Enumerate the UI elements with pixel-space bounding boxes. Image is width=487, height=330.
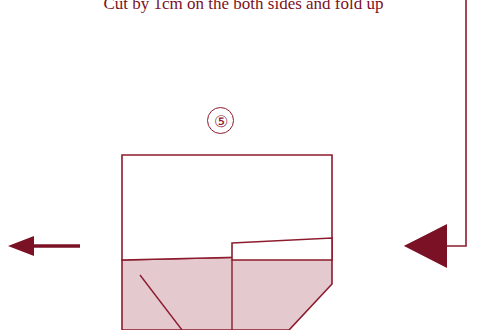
fold-direction-right-arrow-head	[404, 224, 447, 268]
fold-guide-path-right	[404, 0, 466, 246]
diagram-canvas: Cut by 1cm on the both sides and fold up…	[0, 0, 487, 330]
origami-figure	[0, 0, 487, 330]
fold-direction-left-arrow-head	[8, 236, 34, 256]
